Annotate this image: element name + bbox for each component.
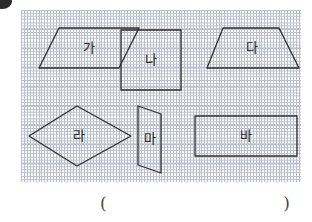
shape-ba-label: 바 bbox=[240, 128, 252, 143]
shape-group-na[interactable]: 나 bbox=[121, 30, 181, 90]
shape-da-label: 다 bbox=[246, 40, 258, 55]
bullet-marker bbox=[0, 0, 12, 9]
answer-open-paren: ( bbox=[100, 195, 107, 212]
shape-group-ra[interactable]: 라 bbox=[29, 106, 131, 166]
shapes-canvas: 가 나 다 라 마 바 bbox=[21, 10, 301, 182]
shape-group-ba[interactable]: 바 bbox=[195, 116, 297, 156]
shape-group-ma[interactable]: 마 bbox=[138, 106, 161, 173]
shape-ra-label: 라 bbox=[73, 128, 85, 143]
shape-group-da[interactable]: 다 bbox=[207, 28, 299, 68]
shape-group-ga[interactable]: 가 bbox=[39, 28, 139, 68]
answer-blank[interactable]: ( ) bbox=[100, 190, 290, 216]
shape-na-label: 나 bbox=[145, 52, 157, 67]
shape-ga-label: 가 bbox=[83, 40, 95, 55]
shape-ma-label: 마 bbox=[144, 131, 156, 146]
answer-close-paren: ) bbox=[283, 195, 290, 212]
